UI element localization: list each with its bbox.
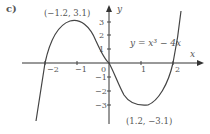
x-tick-label: −1 (75, 65, 87, 74)
x-axis-label: x (190, 49, 195, 59)
x-axis-arrow-icon (197, 60, 204, 66)
panel-label: c) (6, 3, 17, 14)
x-tick-label: 2 (175, 65, 180, 74)
local-min-label: (1.2, −3.1) (126, 116, 172, 126)
y-tick-label: −3 (95, 101, 107, 110)
y-axis-label: y (116, 4, 123, 14)
y-tick-label: 3 (99, 18, 104, 27)
local-max-label: (−1.2, 3.1) (44, 8, 90, 18)
cubic-graph: c) x y −2 −1 1 2 0 3 2 1 −1 −2 −3 (−1.2,… (0, 0, 210, 134)
x-tick-label: 1 (141, 65, 146, 74)
equation-label: y = x³ − 4x (129, 38, 181, 48)
y-tick-label: 2 (99, 31, 104, 40)
y-axis-arrow-icon (106, 5, 112, 12)
y-tick-label: −2 (95, 87, 107, 96)
x-tick-label: −2 (47, 65, 59, 74)
y-tick-label: −1 (95, 73, 107, 82)
